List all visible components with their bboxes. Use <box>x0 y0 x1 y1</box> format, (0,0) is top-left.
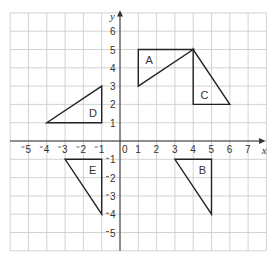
x-tick-label: 3 <box>62 144 68 155</box>
x-tick-label: 1 <box>135 144 141 155</box>
y-tick-label: 5 <box>110 45 116 56</box>
x-tick-label: 6 <box>227 144 233 155</box>
y-tick-label: 1 <box>110 154 116 165</box>
y-tick-label: 3 <box>110 191 116 202</box>
x-tick-label: 4 <box>190 144 196 155</box>
y-tick-label: 1 <box>110 118 116 129</box>
triangle-a-label: A <box>146 54 154 66</box>
x-tick-label: 1 <box>99 144 105 155</box>
y-axis-arrow-icon <box>117 10 123 16</box>
x-tick-label: 2 <box>154 144 160 155</box>
coordinate-grid-diagram: xy 054321123456765432112345 ABCDE <box>0 0 271 256</box>
tick-labels: 054321123456765432112345 <box>22 26 252 238</box>
x-tick-label: 7 <box>245 144 251 155</box>
y-tick-label: 6 <box>110 26 116 37</box>
x-tick-label: 4 <box>44 144 50 155</box>
triangle-c-label: C <box>201 89 209 101</box>
y-tick-label: 4 <box>110 63 116 74</box>
y-tick-label: 5 <box>110 228 116 239</box>
y-tick-label: 2 <box>110 99 116 110</box>
triangle-b-label: B <box>199 164 206 176</box>
origin-label: 0 <box>122 144 128 155</box>
x-tick-label: 5 <box>26 144 32 155</box>
triangle-d-label: D <box>89 107 97 119</box>
y-tick-label: 4 <box>110 209 116 220</box>
triangle-e-label: E <box>89 164 96 176</box>
grid-lines <box>10 13 266 251</box>
x-tick-label: 5 <box>209 144 215 155</box>
y-axis-label: y <box>109 10 115 22</box>
x-tick-label: 2 <box>80 144 86 155</box>
x-tick-label: 3 <box>172 144 178 155</box>
x-axis-label: x <box>261 144 267 156</box>
y-tick-label: 3 <box>110 81 116 92</box>
y-tick-label: 2 <box>110 173 116 184</box>
